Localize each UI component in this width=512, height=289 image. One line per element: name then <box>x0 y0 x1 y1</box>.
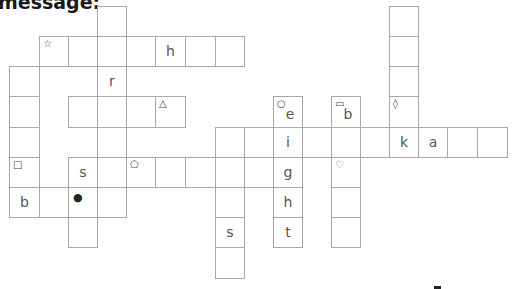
crossword-cell[interactable]: ◊ <box>389 96 419 128</box>
crossword-cell[interactable] <box>447 127 478 158</box>
crossword-cell[interactable] <box>215 187 245 218</box>
cell-letter: h <box>156 43 185 59</box>
crossword-cell[interactable]: ♡ <box>331 157 361 188</box>
crossword-cell[interactable]: ☆ <box>39 36 69 67</box>
crossword-grid: ☆hr△○e▭b◊ika□s⬠g♡b●hst <box>0 0 512 289</box>
crossword-cell[interactable]: t <box>273 217 303 248</box>
crossword-cell[interactable] <box>215 36 245 67</box>
star-icon: ☆ <box>43 39 52 49</box>
crossword-cell[interactable] <box>126 96 156 128</box>
cell-letter: g <box>274 164 302 180</box>
crossword-cell[interactable]: a <box>418 127 448 158</box>
crossword-cell[interactable] <box>185 157 216 188</box>
crossword-cell[interactable]: i <box>273 127 303 158</box>
crossword-cell[interactable] <box>9 96 40 128</box>
crossword-cell[interactable] <box>477 127 508 158</box>
crossword-cell[interactable] <box>389 6 419 37</box>
cell-letter: s <box>69 164 97 180</box>
cell-letter: s <box>216 224 244 240</box>
cell-letter: b <box>336 106 360 122</box>
crossword-cell[interactable]: △ <box>155 96 186 128</box>
crossword-cell[interactable] <box>39 187 69 218</box>
crossword-cell[interactable] <box>97 96 127 128</box>
crossword-cell[interactable]: r <box>97 66 127 97</box>
crossword-cell[interactable] <box>389 66 419 97</box>
crossword-cell[interactable]: s <box>68 157 98 188</box>
square-icon: □ <box>13 160 22 170</box>
crossword-cell[interactable] <box>244 157 274 188</box>
crossword-cell[interactable]: s <box>215 217 245 248</box>
crossword-cell[interactable] <box>97 36 127 67</box>
diamond-icon: ◊ <box>393 99 398 109</box>
heart-icon: ♡ <box>335 160 344 170</box>
crossword-cell[interactable]: b <box>9 187 40 218</box>
cell-letter: h <box>274 194 302 210</box>
dot-icon: ● <box>73 193 83 203</box>
crossword-cell[interactable] <box>68 217 98 248</box>
crossword-cell[interactable]: h <box>155 36 186 67</box>
crossword-cell[interactable] <box>9 66 40 97</box>
crossword-cell[interactable] <box>126 36 156 67</box>
crossword-cell[interactable]: ● <box>68 187 98 218</box>
crossword-cell[interactable]: ○e <box>273 96 303 128</box>
cell-letter: k <box>390 134 418 150</box>
crossword-cell[interactable] <box>331 187 361 218</box>
crossword-cell[interactable] <box>97 157 127 188</box>
crossword-cell[interactable] <box>97 187 127 218</box>
cell-letter: t <box>274 224 302 240</box>
crossword-cell[interactable] <box>389 36 419 67</box>
cell-letter: i <box>274 134 302 150</box>
crossword-cell[interactable] <box>360 127 390 158</box>
triangle-icon: △ <box>159 99 167 109</box>
crossword-cell[interactable] <box>331 127 361 158</box>
crossword-cell[interactable]: h <box>273 187 303 218</box>
crossword-cell[interactable] <box>331 217 361 248</box>
crossword-cell[interactable]: g <box>273 157 303 188</box>
crossword-cell[interactable] <box>215 127 245 158</box>
crossword-cell[interactable] <box>97 127 127 158</box>
crossword-cell[interactable] <box>68 36 98 67</box>
crossword-cell[interactable]: ⬠ <box>126 157 156 188</box>
cell-letter: b <box>10 194 39 210</box>
crossword-cell[interactable] <box>9 127 40 158</box>
cell-letter: r <box>98 73 126 89</box>
cell-letter: a <box>419 134 447 150</box>
cell-letter: e <box>278 106 302 122</box>
crossword-cell[interactable] <box>215 247 245 279</box>
crossword-cell[interactable]: ▭b <box>331 96 361 128</box>
crossword-cell[interactable] <box>302 127 332 158</box>
crossword-cell[interactable] <box>215 157 245 188</box>
crossword-cell[interactable]: □ <box>9 157 40 188</box>
crossword-cell[interactable] <box>155 157 186 188</box>
crossword-cell[interactable]: k <box>389 127 419 158</box>
crossword-cell[interactable] <box>244 127 274 158</box>
pentagon-icon: ⬠ <box>130 160 139 170</box>
crossword-cell[interactable] <box>68 96 98 128</box>
crossword-cell[interactable] <box>97 6 127 37</box>
crossword-cell[interactable] <box>185 36 216 67</box>
